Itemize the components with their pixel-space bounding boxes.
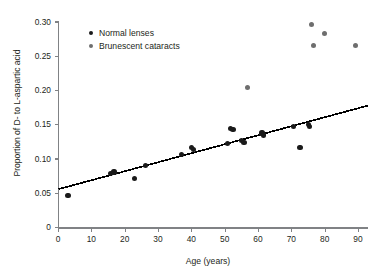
- x-axis-title: Age (years): [58, 256, 358, 266]
- regression-trendline: [59, 106, 369, 190]
- y-tick-label: 0.25: [23, 51, 51, 61]
- y-tick-label: 0.15: [23, 119, 51, 129]
- data-point: [111, 169, 116, 174]
- data-point: [230, 127, 235, 132]
- data-point: [191, 147, 196, 152]
- x-tick-label: 0: [46, 234, 70, 244]
- x-tick-label: 40: [179, 234, 203, 244]
- y-tick-label: 0: [23, 222, 51, 232]
- data-point: [241, 140, 246, 145]
- data-point: [291, 124, 296, 129]
- x-tick-label: 10: [79, 234, 103, 244]
- x-tick-label: 90: [346, 234, 370, 244]
- y-tick-label: 0.10: [23, 154, 51, 164]
- data-point: [309, 22, 314, 27]
- data-point: [297, 145, 302, 150]
- x-tick-label: 70: [279, 234, 303, 244]
- y-axis-title: Proportion of D- to L-aspartic acid: [12, 13, 22, 213]
- scatter-plot-figure: 00.050.100.150.200.250.30 01020304050607…: [0, 0, 376, 277]
- data-point: [307, 124, 312, 129]
- legend-label-normal-lenses: Normal lenses: [99, 28, 154, 38]
- x-tick-label: 30: [146, 234, 170, 244]
- y-tick-label: 0.20: [23, 85, 51, 95]
- legend-marker-brunescent-cataracts: [89, 44, 93, 48]
- data-point: [179, 152, 184, 157]
- data-point: [261, 132, 266, 137]
- data-point: [132, 176, 137, 181]
- x-tick-label: 50: [213, 234, 237, 244]
- legend-label-brunescent-cataracts: Brunescent cataracts: [99, 41, 180, 51]
- x-tick-label: 60: [246, 234, 270, 244]
- x-tick-label: 20: [113, 234, 137, 244]
- y-tick-label: 0.30: [23, 17, 51, 27]
- data-point: [65, 193, 70, 198]
- x-tick-label: 80: [313, 234, 337, 244]
- y-tick-label: 0.05: [23, 188, 51, 198]
